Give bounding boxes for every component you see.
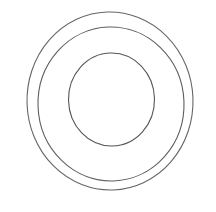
- concentric-circles-figure: [0, 0, 216, 212]
- drawing-canvas: [0, 0, 216, 212]
